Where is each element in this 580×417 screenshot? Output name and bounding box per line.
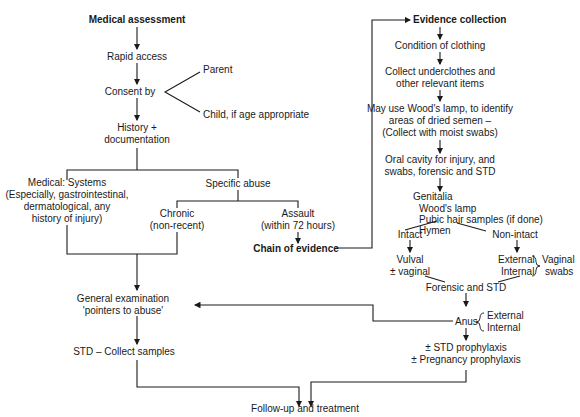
node-genitalia: Genitalia bbox=[413, 191, 452, 203]
node-std-prophylaxis: ± STD prophylaxis bbox=[425, 342, 507, 354]
node-vulval-1: Vulval bbox=[397, 254, 424, 266]
node-woods-1: May use Wood's lamp, to identify bbox=[367, 103, 513, 115]
node-vaginal-swabs-1: Vaginal bbox=[542, 254, 575, 266]
node-chronic-2: (non-recent) bbox=[150, 220, 204, 232]
node-general-exam-2: 'pointers to abuse' bbox=[83, 305, 164, 317]
node-chain-of-evidence: Chain of evidence bbox=[253, 243, 339, 255]
node-collect-under-1: Collect underclothes and bbox=[385, 66, 495, 78]
node-anus: Anus bbox=[455, 316, 478, 328]
node-woods-3: (Collect with moist swabs) bbox=[382, 127, 498, 139]
node-history: History + bbox=[117, 122, 157, 134]
flowchart: Medical assessment Rapid access Consent … bbox=[0, 0, 580, 417]
node-medical-systems-3: dermatological, any bbox=[24, 201, 111, 213]
node-assault-1: Assault bbox=[282, 208, 315, 220]
node-vaginal-swabs-2: swabs bbox=[545, 266, 573, 278]
node-condition-clothing: Condition of clothing bbox=[395, 40, 486, 52]
node-consent-by: Consent by bbox=[105, 86, 156, 98]
node-anus-internal: Internal bbox=[487, 322, 520, 334]
node-follow-up: Follow-up and treatment bbox=[251, 403, 359, 415]
node-specific-abuse: Specific abuse bbox=[205, 178, 270, 190]
node-chronic-1: Chronic bbox=[160, 208, 194, 220]
node-medical-systems-4: history of injury) bbox=[32, 213, 103, 225]
node-assault-2: (within 72 hours) bbox=[261, 220, 335, 232]
node-hymen: Hymen bbox=[419, 225, 451, 237]
node-collect-under-2: other relevant items bbox=[396, 78, 484, 90]
node-std-collect: STD – Collect samples bbox=[73, 346, 175, 358]
node-evidence-collection: Evidence collection bbox=[413, 14, 506, 26]
node-forensic-std: Forensic and STD bbox=[426, 282, 507, 294]
node-oral-2: swabs, forensic and STD bbox=[384, 166, 495, 178]
node-internal: Internal bbox=[501, 266, 534, 278]
node-medical-systems-2: (Especially, gastrointestinal, bbox=[5, 189, 128, 201]
node-medical-systems-1: Medical: Systems bbox=[28, 177, 106, 189]
node-rapid-access: Rapid access bbox=[107, 51, 167, 63]
node-parent: Parent bbox=[203, 64, 232, 76]
node-anus-external: External bbox=[487, 310, 524, 322]
node-general-exam-1: General examination bbox=[77, 293, 169, 305]
node-external: External bbox=[498, 254, 535, 266]
node-documentation: documentation bbox=[104, 134, 170, 146]
node-intact: Intact bbox=[398, 229, 422, 241]
node-child: Child, if age appropriate bbox=[203, 109, 309, 121]
node-vulval-2: ± vaginal bbox=[390, 266, 430, 278]
node-medical-assessment: Medical assessment bbox=[89, 14, 186, 26]
node-pregnancy-prophylaxis: ± Pregnancy prophylaxis bbox=[411, 354, 520, 366]
node-woods-2: areas of dried semen – bbox=[389, 115, 491, 127]
node-oral-1: Oral cavity for injury, and bbox=[385, 154, 495, 166]
node-non-intact: Non-intact bbox=[492, 229, 538, 241]
